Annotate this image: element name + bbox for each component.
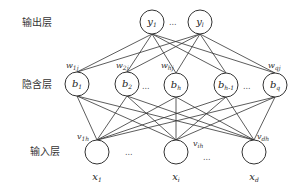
input-node-d [242, 140, 266, 164]
connection-line [200, 34, 275, 73]
input-hidden-weight-label: vih [193, 139, 203, 149]
input-node-i [164, 140, 188, 164]
hidden-ellipsis-1: ... [142, 82, 150, 91]
input-node-label: x1 [92, 171, 101, 183]
input-ellipsis-1: ... [125, 148, 133, 157]
network-svg: 输出层 隐含层 输入层 ... ... ... ... ... y1ylb1b2… [0, 0, 302, 192]
labels: 输出层 隐含层 输入层 ... ... ... ... ... y1ylb1b2… [22, 16, 281, 183]
input-node-label: xi [172, 171, 180, 183]
input-node-1 [85, 140, 109, 164]
connection-line [176, 97, 226, 140]
input-node-label: xd [249, 171, 259, 183]
input-hidden-weight-label: v1h [77, 132, 89, 142]
hidden-layer-label: 隐含层 [22, 78, 52, 90]
hidden-output-weight-label: whj [161, 61, 174, 72]
connection-line [77, 34, 152, 72]
connection-line [97, 96, 127, 140]
connection-line [127, 96, 176, 140]
connection-line [200, 34, 226, 73]
input-ellipsis-2: ... [203, 153, 211, 162]
input-hidden-weight-label: vdh [257, 132, 269, 142]
output-layer-label: 输出层 [22, 16, 52, 28]
output-ellipsis: ... [169, 18, 177, 27]
input-layer-label: 输入层 [30, 145, 60, 157]
hidden-ellipsis-2: ... [243, 82, 251, 91]
connection-line [97, 97, 275, 140]
connection-line [77, 96, 176, 140]
hidden-output-weight-label: w2j [116, 61, 129, 72]
connection-line [97, 97, 176, 140]
hidden-output-weight-label: w1j [66, 61, 79, 72]
neural-network-diagram: 输出层 隐含层 输入层 ... ... ... ... ... y1ylb1b2… [0, 0, 302, 192]
